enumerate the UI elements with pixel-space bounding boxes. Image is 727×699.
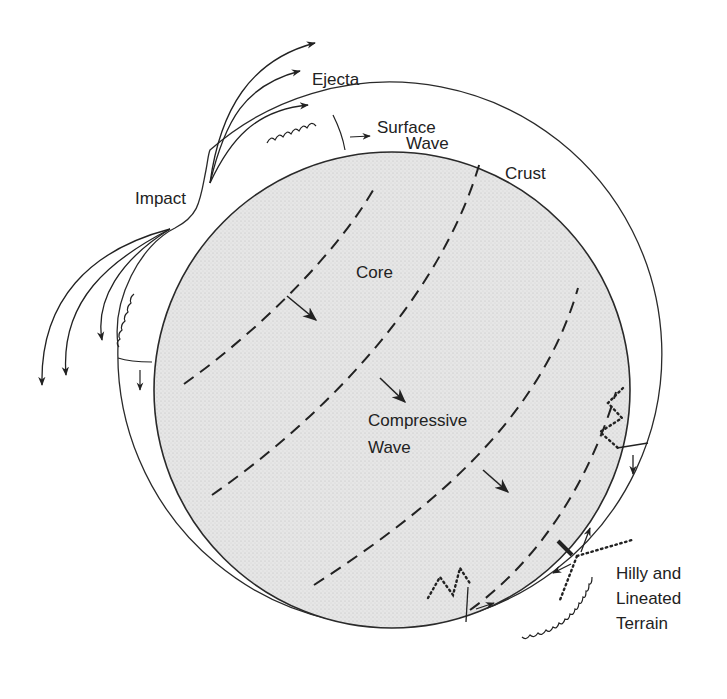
- label-crust: Crust: [505, 164, 546, 184]
- label-core: Core: [356, 263, 393, 283]
- label-surface-wave-line2: Wave: [406, 134, 449, 154]
- label-terrain-line1: Hilly and: [616, 564, 681, 584]
- label-compressive-line2: Wave: [368, 438, 411, 458]
- label-impact: Impact: [135, 189, 186, 209]
- label-terrain-line2: Lineated: [616, 589, 681, 609]
- label-compressive-line1: Compressive: [368, 411, 467, 431]
- label-ejecta: Ejecta: [312, 70, 359, 90]
- label-terrain-line3: Terrain: [616, 614, 668, 634]
